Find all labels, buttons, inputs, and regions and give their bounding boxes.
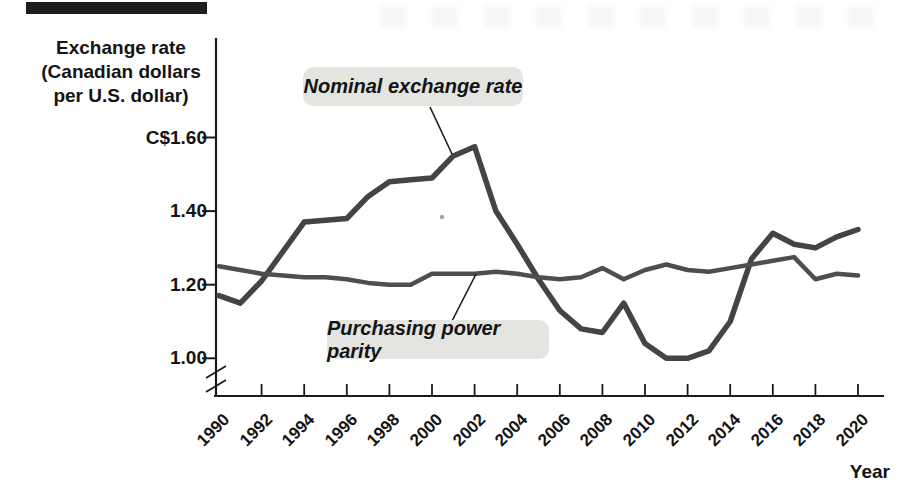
y-axis-title-line1: Exchange rate bbox=[21, 36, 221, 60]
scan-artifact bbox=[380, 6, 895, 28]
y-tick-label-1.00: 1.00 bbox=[100, 347, 207, 369]
figure: Exchange rate (Canadian dollars per U.S.… bbox=[0, 0, 907, 492]
y-axis-title: Exchange rate (Canadian dollars per U.S.… bbox=[21, 36, 221, 108]
figure-header-bar bbox=[26, 2, 207, 14]
y-tick-label-1.20: 1.20 bbox=[100, 274, 207, 296]
annotation-ppp-label: Purchasing power parity bbox=[327, 317, 549, 363]
leader-line-ppp bbox=[452, 274, 476, 321]
annotation-purchasing-power-parity: Purchasing power parity bbox=[327, 320, 549, 359]
annotation-nominal-exchange-rate: Nominal exchange rate bbox=[303, 67, 523, 106]
y-tick-label-C$1.60: C$1.60 bbox=[100, 127, 207, 149]
annotation-nominal-label: Nominal exchange rate bbox=[304, 75, 523, 98]
x-axis-title: Year bbox=[840, 461, 890, 483]
y-axis-title-line3: per U.S. dollar) bbox=[21, 84, 221, 108]
leader-line-nominal bbox=[430, 107, 452, 154]
y-tick-label-1.40: 1.40 bbox=[100, 200, 207, 222]
y-axis-title-line2: (Canadian dollars bbox=[21, 60, 221, 84]
print-artifact-dot bbox=[440, 215, 444, 219]
